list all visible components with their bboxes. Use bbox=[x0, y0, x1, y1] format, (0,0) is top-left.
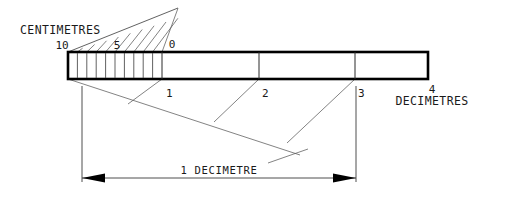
dimension-label: 1 DECIMETRE bbox=[180, 164, 257, 176]
centimetres-heading: CENTIMETRES bbox=[20, 23, 101, 37]
fan-hatch-line bbox=[134, 26, 154, 52]
cm-tick-label-10: 10 bbox=[55, 39, 68, 52]
construction-tick-3 bbox=[287, 79, 355, 143]
lower-construction-group bbox=[68, 79, 355, 163]
dm-tick-label-3: 3 bbox=[358, 87, 365, 100]
cm-tick-label-0: 0 bbox=[169, 38, 176, 51]
construction-tick-2 bbox=[214, 79, 259, 122]
arrowhead-left-icon bbox=[82, 173, 105, 182]
fan-hatch-line bbox=[143, 22, 166, 52]
fan-hatch-line bbox=[96, 41, 106, 52]
arrowhead-right-icon bbox=[333, 173, 356, 182]
scale-bar-group bbox=[68, 52, 428, 79]
cm-tick-label-5: 5 bbox=[114, 39, 121, 52]
scale-diagram-canvas: CENTIMETRES 10 5 0 1 2 3 4 DECIMETRES 1 … bbox=[0, 0, 511, 203]
fan-hatch-line bbox=[124, 30, 142, 53]
dm-tick-label-2: 2 bbox=[262, 87, 269, 100]
dm-tick-label-1: 1 bbox=[166, 87, 173, 100]
decimetres-heading: DECIMETRES bbox=[395, 94, 468, 108]
diagonal-scale-drawing: CENTIMETRES 10 5 0 1 2 3 4 DECIMETRES 1 … bbox=[0, 0, 511, 203]
scale-bar-outline bbox=[68, 52, 428, 79]
construction-tick-1 bbox=[128, 79, 162, 104]
